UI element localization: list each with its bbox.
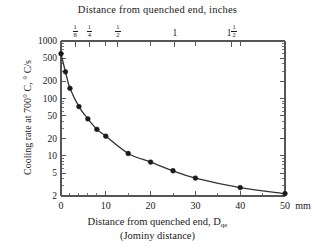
- y-axis-tick-label: 500: [43, 53, 58, 63]
- x-axis-tick-label: 50: [280, 200, 290, 211]
- y-axis-tick-label: 20: [48, 134, 58, 144]
- data-point-marker: [193, 176, 198, 181]
- plot-canvas: 10005002001005020105201020304050mm: [0, 0, 315, 252]
- data-point-marker: [94, 127, 99, 132]
- y-axis-tick-label: 1000: [38, 36, 57, 46]
- y-axis-tick-label: 200: [43, 76, 58, 86]
- data-point-marker: [171, 168, 176, 173]
- y-axis-tick-label: 5: [52, 168, 57, 178]
- x-axis-title: Distance from quenched end, Dqe: [0, 216, 315, 229]
- top-axis-tick-label: 12: [102, 22, 134, 40]
- y-axis-tick-label: 10: [48, 151, 58, 161]
- data-point-marker: [103, 134, 108, 139]
- x-axis-title-text: Distance from quenched end, D: [88, 216, 221, 227]
- data-point-marker: [126, 151, 131, 156]
- data-point-marker: [59, 51, 64, 56]
- data-point-marker: [77, 104, 82, 109]
- data-point-marker: [238, 185, 243, 190]
- x-axis-title-subscript: qe: [221, 221, 228, 229]
- y-axis-tick-label: 2: [52, 191, 57, 201]
- y-axis-tick-label: 100: [43, 94, 58, 104]
- data-point-marker: [85, 117, 90, 122]
- x-axis-unit-label: mm: [295, 200, 311, 211]
- data-point-marker: [148, 160, 153, 165]
- x-axis-subtitle: (Jominy distance): [0, 230, 315, 241]
- data-point-marker: [283, 191, 288, 196]
- top-axis-tick-label: 14: [73, 22, 105, 40]
- x-axis-tick-label: 0: [59, 200, 64, 211]
- x-axis-tick-label: 40: [235, 200, 245, 211]
- data-point-marker: [63, 69, 68, 74]
- x-axis-tick-label: 20: [146, 200, 156, 211]
- top-axis-tick-label: 1: [159, 22, 191, 40]
- data-point-marker: [68, 86, 73, 91]
- x-axis-tick-label: 30: [190, 200, 200, 211]
- y-axis-tick-label: 50: [48, 111, 58, 121]
- top-axis-tick-label: 112: [216, 22, 248, 40]
- chart-figure: Distance from quenched end, inches Cooli…: [0, 0, 315, 252]
- x-axis-tick-label: 10: [101, 200, 111, 211]
